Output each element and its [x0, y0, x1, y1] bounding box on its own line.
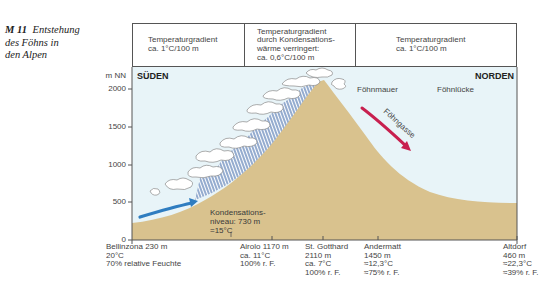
- station-altdorf: Altdorf 460 m ≈22,3°C ≈39% r. F.: [503, 243, 539, 277]
- label-north: NORDEN: [475, 71, 514, 81]
- station-andermatt: Andermatt 1450 m ≈12,3°C ≈75% r. F.: [364, 243, 401, 277]
- station-st-gotthard: St. Gotthard 2110 m ca. 7°C 100% r. F.: [305, 243, 348, 277]
- y-tick-500: 500: [96, 197, 126, 206]
- y-axis-ticks: [128, 89, 132, 240]
- station-airolo: Airolo 1170 m ca. 11°C 100% r. F.: [240, 243, 289, 269]
- label-foehnmauer: Föhnmauer: [357, 85, 398, 94]
- y-axis-unit: m NN: [96, 71, 126, 80]
- y-tick-1500: 1500: [96, 122, 126, 131]
- y-tick-2000: 2000: [96, 84, 126, 93]
- y-tick-1000: 1000: [96, 160, 126, 169]
- label-foehnluecke: Föhnlücke: [437, 85, 474, 94]
- label-south: SÜDEN: [137, 71, 169, 81]
- station-bellinzona: Bellinzona 230 m 20°C 70% relative Feuch…: [106, 243, 181, 269]
